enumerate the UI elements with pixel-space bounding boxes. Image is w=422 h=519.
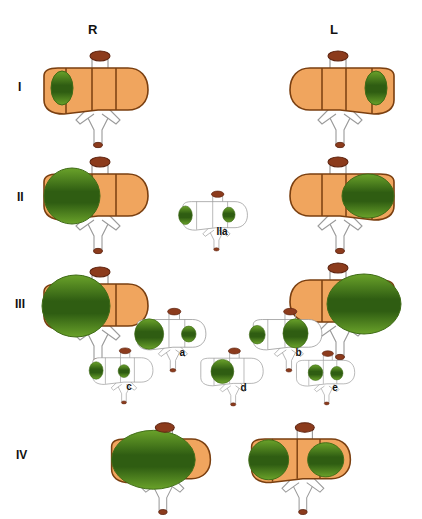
- gallbladder: [119, 348, 131, 354]
- gallbladder: [168, 308, 181, 315]
- lesion-bilobar-right: [308, 443, 344, 477]
- row-label-iv: IV: [16, 448, 27, 462]
- lesion-small-right: [181, 326, 196, 342]
- row-label-ii: II: [17, 190, 24, 204]
- vessel-stump: [324, 402, 329, 405]
- gallbladder: [90, 51, 110, 61]
- column-header-r: R: [88, 22, 97, 37]
- liver-IV-right: [244, 418, 358, 519]
- lesion-medium-left: [89, 362, 103, 379]
- gallbladder: [90, 267, 110, 277]
- vessel-stump: [94, 142, 103, 147]
- vessel-stump: [214, 248, 219, 251]
- vessel-stump: [170, 369, 176, 372]
- liver-IIa: IIa: [178, 188, 252, 255]
- lesion-small-left: [249, 325, 265, 343]
- vessel-stump: [336, 248, 345, 253]
- row-label-iii: III: [15, 297, 25, 311]
- lesion-right-lobe-xlarge: [42, 275, 110, 337]
- vessel-stump: [121, 401, 126, 404]
- column-header-l: L: [330, 22, 338, 37]
- gallbladder: [228, 348, 240, 354]
- lesion-left-lobe-large: [342, 174, 394, 218]
- lesion-left-lobe-xlarge: [327, 274, 401, 334]
- gallbladder: [328, 263, 348, 273]
- liver-body: [183, 202, 247, 231]
- lesion-center: [308, 365, 323, 381]
- liver-III-e: e: [292, 348, 359, 408]
- vessel-stump: [299, 510, 307, 515]
- liver-I-R: [36, 46, 156, 154]
- gallbladder: [155, 423, 174, 432]
- vessel-stump: [94, 248, 103, 253]
- gallbladder: [295, 423, 314, 432]
- vessel-stump: [231, 403, 236, 406]
- liver-III-c: c: [88, 345, 158, 408]
- vessel-stump: [159, 510, 167, 515]
- lesion-bilobar-left: [249, 440, 289, 480]
- sub-label-iia: IIa: [216, 226, 227, 237]
- lesion-large-center: [211, 359, 234, 383]
- sub-label-d: d: [240, 382, 246, 393]
- lesion-large-right: [283, 319, 308, 348]
- lesion-left-edge: [179, 206, 193, 225]
- gallbladder: [90, 157, 110, 167]
- gallbladder: [322, 351, 333, 357]
- sub-label-a: a: [180, 347, 186, 358]
- lesion-left-lobe-small: [365, 71, 387, 105]
- liver-I-L: [282, 46, 402, 154]
- liver-II-R: [36, 152, 156, 260]
- lesion-right-lobe-large: [44, 168, 100, 224]
- row-label-i: I: [18, 80, 21, 94]
- lesion-right-edge: [223, 207, 235, 222]
- lesion-right-lobe-small: [51, 71, 73, 105]
- gallbladder: [284, 308, 297, 315]
- liver-body: [296, 360, 354, 386]
- liver-II-L: [282, 152, 402, 260]
- liver-III-d: d: [196, 345, 268, 410]
- lesion-bilobar-giant: [112, 430, 196, 489]
- gallbladder: [328, 51, 348, 61]
- gallbladder: [328, 157, 348, 167]
- vessel-stump: [286, 369, 292, 372]
- sub-label-c: c: [126, 381, 132, 392]
- sub-label-e: e: [332, 382, 338, 393]
- lesion-right: [331, 366, 343, 379]
- vessel-stump: [336, 142, 345, 147]
- liver-IV-left: [104, 418, 218, 519]
- gallbladder: [211, 191, 223, 197]
- lesion-small-center: [118, 365, 130, 378]
